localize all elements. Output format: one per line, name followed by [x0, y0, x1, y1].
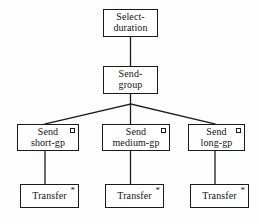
node-label-line: short-gp [31, 138, 65, 149]
node-label-line: Transfer [32, 191, 66, 202]
iteration-star-icon: * [240, 186, 245, 195]
node-label-line: Transfer [117, 191, 151, 202]
diagram-canvas: Select- duration Send- group Send short-… [0, 0, 259, 224]
node-send-long-gp[interactable]: Send long-gp [188, 124, 245, 151]
choice-square-icon [236, 128, 241, 133]
node-send-medium-gp[interactable]: Send medium-gp [102, 124, 170, 151]
node-transfer-1[interactable]: * Transfer [20, 184, 79, 208]
edge-send-group-to-send-long [131, 104, 216, 124]
node-label-line: long-gp [201, 138, 233, 149]
node-send-group[interactable]: Send- group [103, 66, 158, 94]
choice-square-icon [161, 128, 166, 133]
node-label-line: duration [113, 23, 147, 34]
node-label-line: Send [126, 127, 146, 138]
node-send-short-gp[interactable]: Send short-gp [17, 124, 79, 151]
iteration-star-icon: * [70, 186, 75, 195]
node-transfer-2[interactable]: * Transfer [105, 184, 164, 208]
node-label-line: medium-gp [112, 138, 159, 149]
node-label-line: Send [38, 127, 58, 138]
node-label-line: Send [206, 127, 226, 138]
choice-square-icon [70, 128, 75, 133]
node-label-line: Transfer [202, 191, 236, 202]
node-select-duration[interactable]: Select- duration [103, 9, 158, 37]
node-label-line: group [119, 80, 143, 91]
iteration-star-icon: * [155, 186, 160, 195]
node-transfer-3[interactable]: * Transfer [190, 184, 249, 208]
edge-send-group-to-send-short [45, 104, 131, 124]
